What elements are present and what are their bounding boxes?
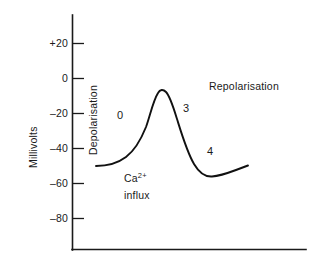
action-potential-figure: +20 0 –20 –40 –60 –80 Millivolts Depolar… <box>0 0 318 265</box>
phase-0-label: 0 <box>117 110 123 121</box>
phase-4-label: 4 <box>207 146 213 157</box>
action-potential-curve <box>96 90 248 177</box>
phase-3-label: 3 <box>183 103 189 114</box>
y-tick-label-minus80: –80 <box>40 213 68 224</box>
repolarisation-label: Repolarisation <box>209 81 279 92</box>
depolarisation-label: Depolarisation <box>88 85 99 155</box>
calcium-influx-label: influx <box>124 190 150 201</box>
y-axis-ticks <box>73 44 85 219</box>
y-tick-label-minus60: –60 <box>40 178 68 189</box>
calcium-symbol: Ca <box>124 172 138 184</box>
y-tick-label-minus20: –20 <box>40 108 68 119</box>
y-axis-title: Millivolts <box>28 126 39 168</box>
y-tick-label-20: +20 <box>40 38 68 49</box>
calcium-ion-label: Ca2+ <box>124 173 147 184</box>
y-tick-label-0: 0 <box>40 73 68 84</box>
y-tick-label-minus40: –40 <box>40 143 68 154</box>
calcium-charge: 2+ <box>138 171 147 180</box>
